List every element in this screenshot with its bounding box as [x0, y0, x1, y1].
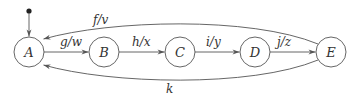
state-b-label: B	[98, 45, 109, 60]
state-e: E	[316, 37, 346, 67]
state-diagram: g/w h/x i/y j/z f/v k A B C D E	[0, 0, 360, 99]
state-d: D	[240, 37, 270, 67]
state-a: A	[14, 37, 44, 67]
edge-label-e-a-upper: f/v	[92, 13, 108, 27]
state-e-label: E	[325, 45, 336, 60]
state-b: B	[89, 37, 119, 67]
edge-label-c-d: i/y	[206, 35, 221, 49]
state-a-label: A	[23, 45, 33, 60]
state-c: C	[165, 37, 195, 67]
initial-dot-icon	[26, 8, 31, 13]
edge-label-d-e: j/z	[274, 35, 292, 49]
initial-state-marker	[26, 8, 31, 36]
edge-label-e-a-lower: k	[166, 82, 173, 96]
state-c-label: C	[175, 45, 185, 60]
state-d-label: D	[249, 45, 261, 60]
edge-label-a-b: g/w	[60, 35, 83, 49]
edge-label-b-c: h/x	[132, 35, 151, 49]
